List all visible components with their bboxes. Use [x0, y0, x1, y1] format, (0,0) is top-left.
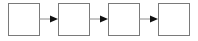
- flow-node-3: [108, 3, 140, 36]
- flow-node-1: [8, 3, 40, 36]
- flow-node-4: [158, 3, 190, 36]
- arrow-2-to-3-icon: [89, 14, 108, 24]
- arrow-1-to-2-icon: [39, 14, 58, 24]
- arrow-3-to-4-icon: [139, 14, 158, 24]
- flow-diagram: [0, 0, 198, 41]
- flow-node-2: [58, 3, 90, 36]
